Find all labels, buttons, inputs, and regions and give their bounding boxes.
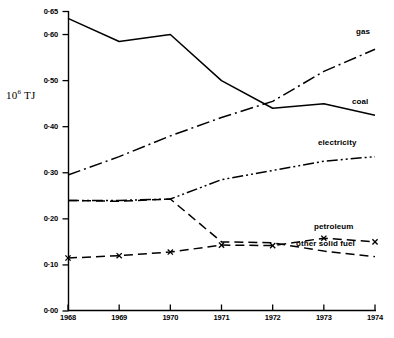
x-axis-tick-label: 1974 bbox=[355, 313, 394, 322]
x-axis-tick-label: 1969 bbox=[99, 313, 139, 322]
y-axis-ticks bbox=[63, 12, 69, 312]
x-axis-tick-label: 1973 bbox=[304, 313, 344, 322]
series-line-electricity bbox=[68, 157, 375, 201]
series-label-petroleum: petroleum bbox=[314, 222, 354, 231]
series-label-other-solid-fuel: other solid fuel bbox=[296, 239, 355, 248]
y-axis-tick-label: 0·50 bbox=[24, 76, 58, 85]
series-marker-petroleum bbox=[372, 239, 377, 244]
x-axis-tick-label: 1968 bbox=[48, 313, 88, 322]
y-axis-tick-label: 0·65 bbox=[24, 7, 58, 16]
plot-canvas bbox=[0, 0, 394, 338]
energy-consumption-line-chart: 106 TJ 0·000·100·200·300·400·500·600·65 … bbox=[0, 0, 394, 338]
y-axis-tick-label: 0·10 bbox=[24, 260, 58, 269]
y-axis-tick-label: 0·40 bbox=[24, 122, 58, 131]
series-line-coal bbox=[68, 18, 375, 115]
series-label-coal: coal bbox=[352, 97, 368, 106]
series-line-gas bbox=[68, 49, 375, 175]
y-axis-tick-label: 0·30 bbox=[24, 168, 58, 177]
x-axis-ticks bbox=[68, 305, 375, 311]
x-axis-tick-label: 1972 bbox=[253, 313, 293, 322]
y-axis-tick-label: 0·20 bbox=[24, 214, 58, 223]
x-axis-tick-label: 1970 bbox=[150, 313, 190, 322]
x-axis-tick-label: 1971 bbox=[202, 313, 242, 322]
series-label-gas: gas bbox=[356, 27, 370, 36]
y-axis-tick-label: 0·60 bbox=[24, 30, 58, 39]
series-label-electricity: electricity bbox=[318, 138, 356, 147]
